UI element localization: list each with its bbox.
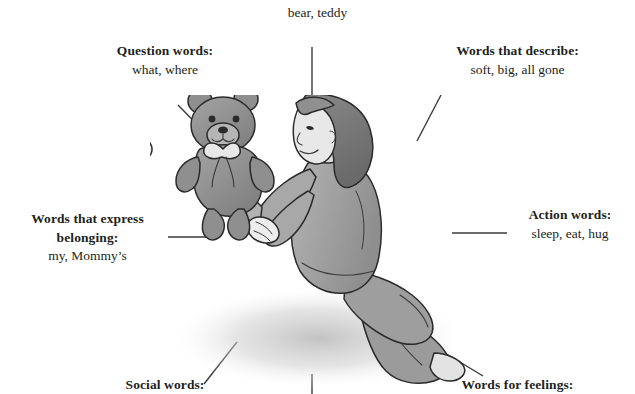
word-categories-figure: bear, teddy Question words: what, where …: [0, 0, 635, 394]
label-social-words: Social words:: [50, 376, 280, 394]
mother-toddler-teddy-illustration: [150, 95, 480, 394]
label-words-that-describe: Words that describe: soft, big, all gone: [400, 42, 635, 79]
label-words-that-describe-header: Words that describe:: [400, 42, 635, 61]
label-question-words: Question words: what, where: [30, 42, 300, 79]
label-words-for-feelings-header: Words for feelings:: [400, 376, 635, 394]
label-words-for-feelings: Words for feelings:: [400, 376, 635, 394]
toddler-hand-far: [150, 139, 152, 160]
label-action-words: Action words: sleep, eat, hug: [505, 206, 635, 243]
label-action-words-header: Action words:: [505, 206, 635, 225]
bear-eye-left: [209, 116, 216, 123]
label-belonging-values: my, Mommy’s: [0, 247, 175, 266]
label-belonging-header-line1: Words that express: [0, 209, 175, 228]
label-belonging-header-line2: belonging:: [0, 228, 175, 247]
label-action-words-values: sleep, eat, hug: [505, 225, 635, 244]
label-question-words-header: Question words:: [30, 42, 300, 61]
bear-nose: [218, 126, 228, 133]
label-question-words-values: what, where: [30, 61, 300, 80]
bear-eye-right: [233, 116, 240, 123]
label-words-that-describe-values: soft, big, all gone: [400, 61, 635, 80]
label-social-words-header: Social words:: [50, 376, 280, 394]
label-top-center: bear, teddy: [0, 4, 635, 23]
label-words-that-express-belonging: Words that express belonging: my, Mommy’…: [0, 209, 175, 266]
label-top-center-values: bear, teddy: [0, 4, 635, 23]
